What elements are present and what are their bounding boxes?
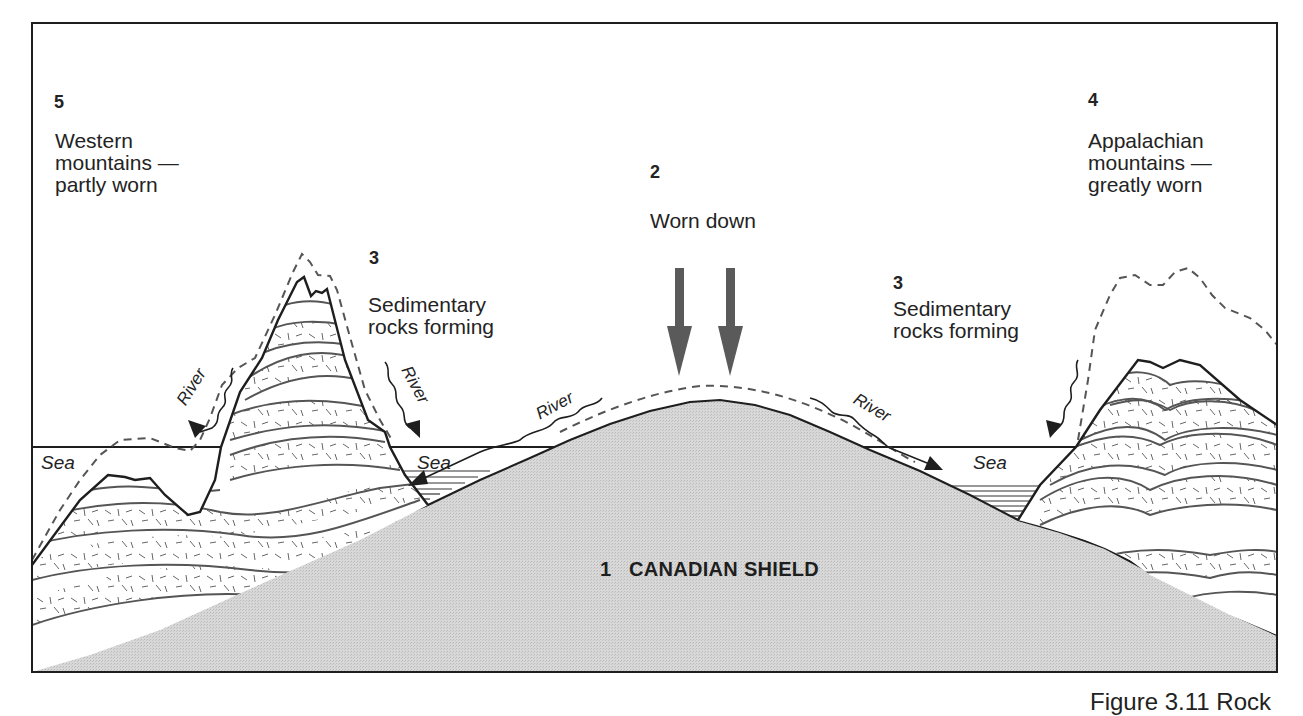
label-western-number: 5: [54, 92, 64, 113]
label-shield-number: 1: [600, 558, 611, 580]
label-sedimentary-left-number: 3: [369, 248, 379, 269]
label-western-line2: mountains —: [55, 152, 179, 174]
label-appalachian-number: 4: [1088, 90, 1098, 111]
label-shield: 1 CANADIAN SHIELD: [600, 558, 819, 581]
arrowhead-appalachian: [1046, 420, 1062, 438]
label-worn-down-number: 2: [650, 162, 660, 183]
label-sedimentary-right-line2: rocks forming: [893, 320, 1019, 342]
label-appalachian-line2: mountains —: [1088, 152, 1212, 174]
arrowhead-west-left: [188, 420, 206, 438]
label-sea-west: Sea: [41, 452, 75, 474]
river-appalachian: [1054, 360, 1078, 432]
worn-down-arrows: [667, 268, 743, 376]
label-sedimentary-left-line1: Sedimentary: [368, 294, 486, 316]
label-sedimentary-right-line1: Sedimentary: [893, 298, 1011, 320]
label-appalachian-line1: Appalachian: [1088, 130, 1204, 152]
label-sedimentary-right-number: 3: [893, 273, 903, 294]
figure-caption: Figure 3.11 Rock: [1090, 688, 1271, 716]
label-western-line3: partly worn: [55, 174, 158, 196]
label-worn-down-text: Worn down: [650, 210, 756, 232]
label-sedimentary-left-line2: rocks forming: [368, 316, 494, 338]
label-appalachian-line3: greatly worn: [1088, 174, 1202, 196]
label-shield-text: CANADIAN SHIELD: [629, 558, 819, 580]
down-arrow-icon: [667, 268, 692, 376]
down-arrow-icon: [718, 268, 743, 376]
label-sea-east: Sea: [973, 452, 1007, 474]
label-western-line1: Western: [55, 130, 133, 152]
arrowhead-west-right: [405, 420, 420, 438]
label-sea-middle: Sea: [417, 452, 451, 474]
